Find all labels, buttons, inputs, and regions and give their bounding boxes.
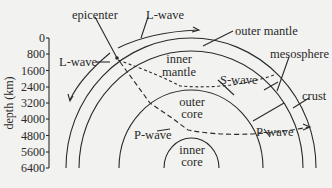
label-mesosphere: mesosphere (270, 47, 329, 61)
label-inner-mantle-1: inner (166, 52, 193, 66)
label-outer-core-2: core (181, 107, 203, 121)
mesosphere-leader-2 (264, 82, 278, 90)
label-epicenter: epicenter (72, 8, 119, 22)
tick-800: 800 (27, 47, 45, 61)
epicenter-leader (95, 17, 117, 58)
tick-3200: 3200 (21, 96, 45, 110)
label-crust: crust (302, 89, 327, 103)
tick-4000: 4000 (21, 112, 45, 126)
label-s-wave: S-wave (220, 73, 258, 87)
epicenter-dot (115, 56, 119, 60)
crust-leader-2 (253, 103, 284, 121)
label-p-wave-left: P-wave (134, 128, 172, 142)
tick-2400: 2400 (21, 80, 45, 94)
label-outer-mantle: outer mantle (235, 24, 298, 38)
tick-4800: 4800 (21, 129, 45, 143)
label-inner-mantle-2: mantle (162, 65, 196, 79)
tick-6400: 6400 (21, 161, 45, 175)
mesosphere-leader (277, 57, 289, 91)
label-inner-core-2: core (181, 155, 203, 169)
l-wave-arrow-top (118, 30, 198, 48)
axis-label: depth (km) (2, 77, 16, 130)
l-wave-arrowhead-top (192, 27, 199, 32)
label-l-wave-left: L-wave (59, 55, 98, 69)
tick-1600: 1600 (21, 64, 45, 78)
label-p-wave-right: P-wave (256, 125, 294, 139)
tick-0: 0 (39, 31, 45, 45)
tick-5600: 5600 (21, 145, 45, 159)
earth-layers-diagram: 0 800 1600 2400 3200 4000 4800 5600 6400… (0, 0, 332, 188)
label-l-wave-top: L-wave (146, 8, 185, 22)
